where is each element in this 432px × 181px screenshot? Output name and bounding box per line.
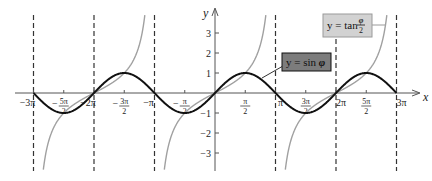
y-axis-label: y — [202, 6, 209, 20]
x-tick-label: 2π — [336, 97, 346, 108]
x-tick-label: 3π — [396, 97, 406, 108]
x-axis-label: x — [422, 90, 429, 104]
x-tick-denominator: 2 — [122, 107, 126, 116]
sin-label-text: y = sin φ — [286, 56, 326, 68]
y-tick-label: 1 — [206, 68, 211, 79]
x-tick-numerator: π — [183, 97, 187, 106]
x-tick-numerator: 3π — [302, 97, 310, 106]
x-tick-numerator: 3π — [120, 97, 128, 106]
sin-annotation: y = sin φ — [262, 53, 331, 78]
x-tick-denominator: 2 — [364, 107, 368, 116]
tan-label-text: y = tan — [327, 19, 358, 31]
x-tick-label: −π — [143, 97, 154, 108]
x-tick-numerator: 5π — [60, 97, 68, 106]
y-tick-label: −1 — [200, 108, 211, 119]
x-tick-minus: − — [112, 98, 118, 109]
y-tick-label: 2 — [206, 48, 211, 59]
sin-leader-line — [262, 66, 283, 78]
y-tick-label: −2 — [200, 128, 211, 139]
x-tick-denominator: 2 — [243, 107, 247, 116]
chart: x y −3π−5π2−2π−3π2−π−π2π2π3π22π5π23π 321… — [0, 0, 432, 181]
y-tick-label: −3 — [200, 148, 211, 159]
tan-annotation: y = tan φ 2 — [323, 14, 385, 37]
x-tick-label: −3π — [20, 97, 36, 108]
tan-label-numerator: φ — [359, 16, 364, 25]
plot-area: x y −3π−5π2−2π−3π2−π−π2π2π3π22π5π23π 321… — [0, 0, 432, 181]
x-tick-numerator: π — [243, 97, 247, 106]
y-tick-label: 3 — [206, 28, 211, 39]
x-tick-numerator: 5π — [362, 97, 370, 106]
tan-label-denominator: 2 — [359, 26, 363, 35]
x-tick-minus: − — [173, 98, 179, 109]
x-tick-minus: − — [52, 98, 58, 109]
